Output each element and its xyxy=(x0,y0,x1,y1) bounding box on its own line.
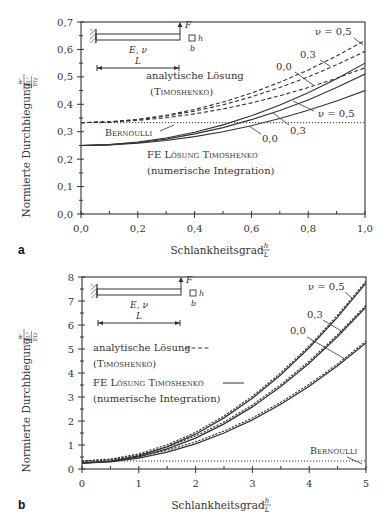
y-frac-mid: FL³ xyxy=(25,332,31,343)
y-tick-label: 0,5 xyxy=(57,71,73,82)
bernoulli-label: Bernoulli xyxy=(105,127,152,138)
fe-label-2: (numerische Integration) xyxy=(147,165,275,176)
force-label: F xyxy=(184,20,192,30)
x-tick-label: 0,4 xyxy=(187,223,203,234)
x-tick-label: 5 xyxy=(363,478,369,489)
y-tick-label: 8 xyxy=(68,272,74,283)
force-label: F xyxy=(185,275,193,285)
y-axis-label-text: Normierte Durchbiegung xyxy=(20,82,32,217)
cross-section-h: h xyxy=(199,289,204,298)
y-tick-label: 0,4 xyxy=(57,99,73,110)
x-frac-num: h xyxy=(265,497,270,505)
y-tick-label: 0,6 xyxy=(57,44,73,55)
curve-label-nu05-fe: ν = 0,5 xyxy=(318,108,355,119)
x-tick-label: 0,8 xyxy=(300,223,316,234)
curve-label-03-fe: 0,3 xyxy=(290,125,306,136)
leader-00-analytic xyxy=(295,72,313,85)
curve-label-nu05: ν = 0,5 xyxy=(308,281,345,292)
x-tick-label: 2 xyxy=(192,478,198,489)
x-axis-label: Schlankheitsgrad xyxy=(171,499,265,511)
y-frac-den: EIz xyxy=(32,77,38,87)
chart-panel-a: 0,00,20,40,60,81,00,00,10,20,30,40,50,60… xyxy=(16,17,373,260)
cross-section-h: h xyxy=(198,34,203,43)
material-label: E, ν xyxy=(129,300,148,310)
analytic-label: analytische Lösung xyxy=(146,70,244,81)
fe-label-2: (numerische Integration) xyxy=(93,393,221,404)
beam-rect xyxy=(96,34,180,40)
cross-section-icon xyxy=(190,290,196,296)
length-arrow-left xyxy=(97,66,102,70)
leader-00-fe xyxy=(249,126,261,134)
analytic-curve xyxy=(82,281,366,461)
y-tick-label: 6 xyxy=(68,320,74,331)
y-tick-label: 2 xyxy=(68,416,74,427)
y-tick-label: 4 xyxy=(68,368,74,379)
figure: 0,00,20,40,60,81,00,00,10,20,30,40,50,60… xyxy=(0,0,388,528)
x-frac-den: L xyxy=(264,506,270,514)
y-axis-label-text: Normierte Durchbiegung xyxy=(20,337,32,472)
leader-nu05-analytic xyxy=(354,38,363,45)
y-tick-label: 1 xyxy=(68,440,74,451)
leader-nu05-fe xyxy=(293,101,314,111)
force-arrow-head xyxy=(179,277,184,282)
cross-section-icon xyxy=(189,35,195,41)
panel-label: b xyxy=(18,498,25,512)
x-tick-label: 1,0 xyxy=(357,223,373,234)
y-frac-num: w xyxy=(16,334,23,340)
material-label: E, ν xyxy=(128,45,147,55)
x-axis-label: Schlankheitsgrad xyxy=(170,244,264,256)
y-tick-label: 0,0 xyxy=(57,209,73,220)
fe-curve xyxy=(82,283,366,463)
curve-label-00-fe: 0,0 xyxy=(262,133,278,144)
analytic-label-2: (Timoshenko) xyxy=(93,358,156,369)
y-frac-num: w xyxy=(16,79,23,85)
leader-03-fe xyxy=(273,113,289,125)
wall-hatch xyxy=(91,284,97,298)
length-label: L xyxy=(134,56,141,66)
curve-label-03-analytic: 0,3 xyxy=(300,49,316,60)
analytic-label: analytische Lösung xyxy=(93,342,191,353)
x-tick-label: 0,6 xyxy=(243,223,259,234)
y-frac-den: EIz xyxy=(32,332,38,342)
bernoulli-leader xyxy=(347,457,362,464)
bernoulli-label: Bernoulli xyxy=(310,445,357,456)
x-tick-label: 0 xyxy=(79,478,85,489)
beam-sketch: FhbE, νL xyxy=(90,20,203,71)
beam-sketch: FhbE, νL xyxy=(91,275,204,326)
chart-panel-b: 012345012345678Normierte DurchbiegungwFL… xyxy=(16,272,369,515)
cross-section-b: b xyxy=(191,299,196,308)
y-tick-label: 5 xyxy=(68,344,74,355)
length-arrow-left xyxy=(98,321,103,325)
leader-00 xyxy=(307,337,345,359)
wall-hatch xyxy=(90,29,96,43)
y-tick-label: 0,2 xyxy=(57,154,73,165)
curve-label-03: 0,3 xyxy=(307,309,323,320)
y-tick-label: 0,3 xyxy=(57,126,73,137)
analytic-label-2: (Timoshenko) xyxy=(150,86,213,97)
length-arrow-right xyxy=(175,321,180,325)
x-frac-den: L xyxy=(263,251,269,259)
y-tick-label: 0,7 xyxy=(57,17,73,28)
curve-label-nu05-analytic: ν = 0,5 xyxy=(315,26,352,37)
y-tick-label: 7 xyxy=(68,296,74,307)
beam-rect xyxy=(97,289,181,295)
y-frac-mid: FL³ xyxy=(25,77,31,88)
x-frac-num: h xyxy=(264,242,269,250)
x-tick-label: 1 xyxy=(136,478,142,489)
curve-label-00-analytic: 0,0 xyxy=(276,61,292,72)
cross-section-b: b xyxy=(190,44,195,53)
x-tick-label: 0,0 xyxy=(73,223,89,234)
panel-label: a xyxy=(18,243,25,257)
fe-label: FE Lösung Timoshenko xyxy=(147,149,258,160)
bernoulli-leader xyxy=(160,125,174,131)
curves xyxy=(82,281,366,463)
y-tick-label: 0 xyxy=(68,464,74,475)
y-axis-label: Normierte DurchbiegungwFL³EIz xyxy=(16,329,38,472)
x-tick-label: 0,2 xyxy=(130,223,146,234)
curve-label-00: 0,0 xyxy=(290,325,306,336)
plot-frame xyxy=(82,277,366,469)
leader-nu05 xyxy=(345,292,353,299)
y-tick-label: 3 xyxy=(68,392,74,403)
y-axis-label: Normierte DurchbiegungwFL³EIz xyxy=(16,74,38,217)
x-tick-label: 3 xyxy=(249,478,255,489)
